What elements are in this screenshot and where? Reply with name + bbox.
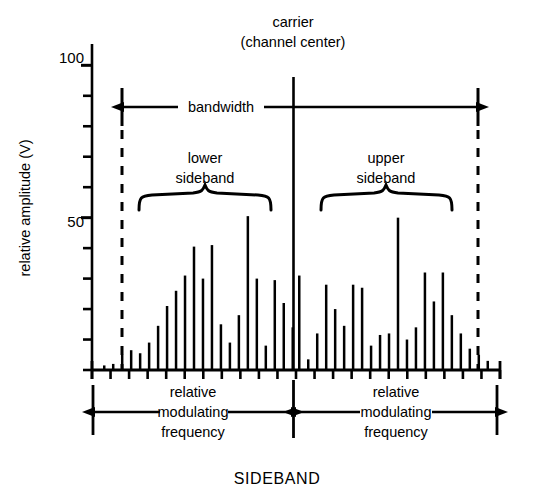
carrier-label-line2: (channel center): [241, 34, 346, 50]
lower-sideband-annotation: lower sideband: [139, 150, 271, 210]
left-freq-label-line2: modulating: [158, 404, 229, 420]
upper-sideband-brace: [321, 185, 452, 210]
figure-caption: SIDEBAND: [234, 470, 321, 487]
left-freq-label-line1: relative: [170, 384, 217, 400]
y-tick-label-100: 100: [59, 49, 84, 66]
sideband-spectrum-svg: 100 50 relative amplitude (V) carrier (c…: [0, 0, 535, 497]
lower-sideband-brace: [139, 185, 271, 210]
y-axis: 100 50 relative amplitude (V): [17, 44, 92, 371]
upper-sideband-annotation: upper sideband: [321, 150, 452, 210]
left-freq-label-line3: frequency: [161, 424, 225, 440]
upper-sideband-label-line1: upper: [367, 150, 404, 166]
y-axis-title: relative amplitude (V): [17, 140, 33, 277]
bandwidth-label: bandwidth: [188, 99, 254, 115]
x-axis: [92, 361, 500, 379]
left-modulating-frequency-annotation: relative modulating frequency: [93, 380, 294, 440]
right-freq-label-line2: modulating: [361, 404, 432, 420]
right-modulating-frequency-annotation: relative modulating frequency: [296, 384, 497, 440]
carrier-label-line1: carrier: [272, 14, 313, 30]
right-freq-label-line1: relative: [373, 384, 420, 400]
y-tick-label-50: 50: [67, 213, 84, 230]
right-freq-label-line3: frequency: [364, 424, 428, 440]
sideband-spectrum-figure: 100 50 relative amplitude (V) carrier (c…: [0, 0, 535, 497]
spectral-lines: [104, 216, 488, 370]
lower-sideband-label-line1: lower: [188, 150, 223, 166]
